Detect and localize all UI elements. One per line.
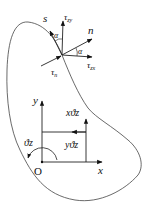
theta-z-label: ϑz [24,137,33,148]
tau-zx-label: τzx [87,60,96,71]
x-axis-label: x [97,164,103,176]
tau-n-label: τn [51,67,57,78]
tau-zy-arrow [62,21,63,55]
origin-point [41,161,43,163]
x-theta-z-label: xϑz [65,107,79,118]
alpha-top-label: α [54,31,59,40]
alpha-right-label: α [78,47,83,56]
torsion-diagram: s τzy α n τzx α τn y x O xϑz yϑz ϑz [0,0,146,203]
y-theta-z-label: yϑz [64,139,78,150]
origin-label: O [34,165,42,177]
s-axis-label: s [43,12,47,24]
n-axis-arrow [62,39,92,55]
rotation-arc [28,148,57,160]
tau-zy-label: τzy [64,12,73,23]
tau-n-arrow [41,56,61,66]
y-axis-label: y [32,94,38,106]
n-axis-label: n [88,24,94,36]
